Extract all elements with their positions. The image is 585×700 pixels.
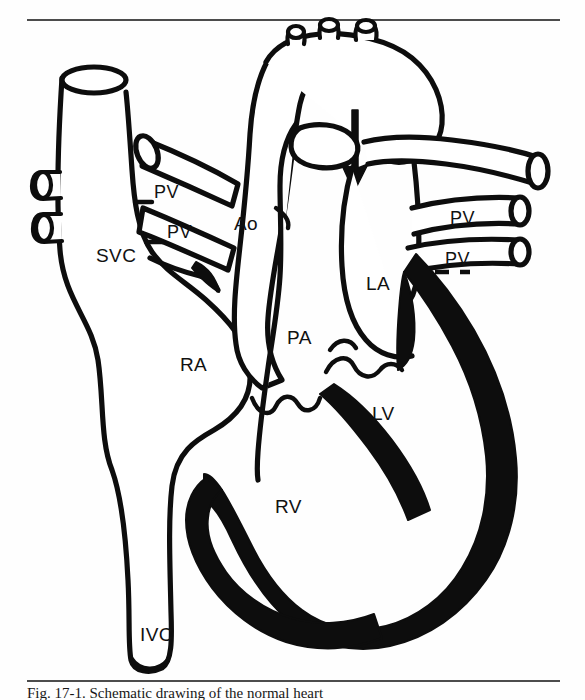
pv-right-upper-opening: [511, 197, 529, 225]
heart-schematic-svg: SVC IVC RA RV LA LV Ao PA PV PV PV PV: [0, 0, 585, 700]
label-rv: RV: [275, 496, 302, 517]
arch-branch-2-opening: [320, 19, 338, 31]
label-lv: LV: [372, 403, 395, 424]
arch-branch-3-opening: [357, 20, 375, 32]
right-pa-opening: [528, 154, 548, 188]
arch-branch-1-opening: [288, 26, 304, 38]
label-ivc: IVC: [140, 624, 173, 645]
svc-opening: [62, 67, 126, 93]
figure-caption: Fig. 17-1. Schematic drawing of the norm…: [27, 686, 560, 700]
left-stub-vessel-lower-opening: [36, 215, 52, 241]
label-pv-right-lower: PV: [445, 249, 470, 269]
label-svc: SVC: [96, 245, 136, 266]
label-ao: Ao: [234, 213, 258, 234]
pv-right-lower-opening: [511, 239, 529, 265]
figure-caption-band: Fig. 17-1. Schematic drawing of the norm…: [27, 686, 560, 700]
label-la: LA: [366, 273, 390, 294]
left-stub-vessel-upper-opening: [35, 172, 51, 198]
label-ra: RA: [180, 354, 207, 375]
figure-root: SVC IVC RA RV LA LV Ao PA PV PV PV PV Fi…: [0, 0, 585, 700]
label-pv-left-lower: PV: [167, 222, 192, 242]
label-pv-left-upper: PV: [154, 182, 179, 202]
pa-bifurcation-loop: [291, 125, 358, 168]
label-pa: PA: [287, 327, 312, 348]
label-pv-right-upper: PV: [450, 208, 475, 228]
